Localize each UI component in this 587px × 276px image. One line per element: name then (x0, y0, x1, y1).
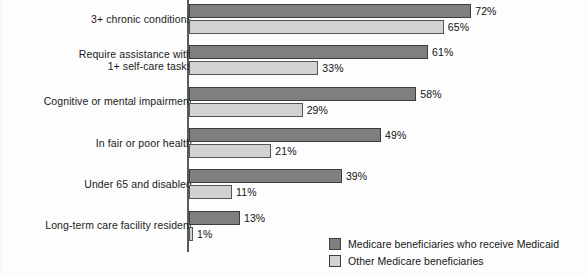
bar-medicaid (189, 87, 416, 101)
bar-value-label: 65% (448, 20, 469, 34)
bar-other-medicare (189, 103, 303, 117)
bar-other-medicare (189, 144, 271, 158)
bar-value-label: 33% (322, 61, 343, 75)
bar-medicaid (189, 128, 381, 142)
bar-value-label: 11% (236, 185, 257, 199)
category-label: 3+ chronic conditions (91, 13, 192, 26)
chart-category-group: Require assistance with 1+ self-care tas… (0, 45, 587, 75)
bar-value-label: 58% (420, 87, 441, 101)
legend-item-medicaid: Medicare beneficiaries who receive Medic… (329, 236, 581, 251)
bar-medicaid (189, 45, 428, 59)
legend-swatch-light-icon (329, 255, 341, 267)
bar-other-medicare (189, 61, 318, 75)
legend-item-other-medicare: Other Medicare beneficiaries (329, 253, 581, 268)
chart-category-group: 3+ chronic conditions72%65% (0, 4, 587, 34)
bar-value-label: 13% (244, 211, 265, 225)
bar-value-label: 72% (475, 4, 496, 18)
bar-chart: 3+ chronic conditions72%65%Require assis… (0, 0, 587, 276)
legend-label-other-medicare: Other Medicare beneficiaries (348, 255, 484, 267)
bar-value-label: 49% (385, 128, 406, 142)
bar-value-label: 21% (275, 144, 296, 158)
legend-label-medicaid: Medicare beneficiaries who receive Medic… (348, 238, 559, 250)
category-label: Under 65 and disabled (84, 178, 192, 191)
bar-other-medicare (189, 185, 232, 199)
chart-category-group: In fair or poor health49%21% (0, 128, 587, 158)
bar-other-medicare (189, 20, 444, 34)
legend-swatch-dark-icon (329, 238, 341, 250)
category-label: Require assistance with 1+ self-care tas… (79, 48, 192, 73)
bar-value-label: 39% (346, 169, 367, 183)
category-label: In fair or poor health (96, 137, 192, 150)
bar-value-label: 29% (307, 103, 328, 117)
bar-value-label: 61% (432, 45, 453, 59)
bar-other-medicare (189, 227, 193, 241)
chart-legend: Medicare beneficiaries who receive Medic… (329, 236, 581, 270)
chart-category-group: Cognitive or mental impairment58%29% (0, 87, 587, 117)
bar-medicaid (189, 169, 342, 183)
bar-medicaid (189, 4, 471, 18)
category-label: Long-term care facility resident (45, 219, 192, 232)
bar-medicaid (189, 211, 240, 225)
chart-category-group: Under 65 and disabled39%11% (0, 169, 587, 199)
category-label: Cognitive or mental impairment (44, 95, 192, 108)
bar-value-label: 1% (197, 227, 212, 241)
